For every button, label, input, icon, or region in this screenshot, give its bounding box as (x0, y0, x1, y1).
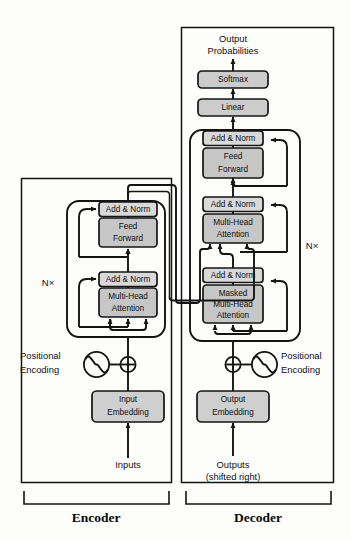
decoder-add-norm-2-label: Add & Norm (211, 200, 256, 209)
encoder-ff-label-2: Forward (113, 234, 143, 243)
transformer-architecture-diagram: Inputs Input Embedding Positional Encodi… (0, 0, 351, 539)
input-embedding-label-2: Embedding (107, 408, 149, 417)
encoder-add-norm-2-label: Add & Norm (106, 205, 151, 214)
encoder-inputs-label: Inputs (115, 459, 141, 470)
input-embedding-label-1: Input (119, 395, 138, 404)
decoder-repeat-label: N× (306, 240, 319, 251)
output-embedding-label-2: Embedding (212, 408, 254, 417)
encoder-add-norm-1-label: Add & Norm (106, 275, 151, 284)
output-probabilities-label-1: Output (219, 33, 248, 44)
decoder-ff-label-2: Forward (218, 165, 248, 174)
decoder-add-norm-3-label: Add & Norm (211, 134, 256, 143)
encoder-mha-label-1: Multi-Head (108, 292, 148, 301)
decoder-positional-label-1: Positional (281, 350, 322, 361)
decoder-footer-label: Decoder (234, 510, 282, 525)
decoder-mha-label-1: Multi-Head (213, 218, 253, 227)
decoder-mha-label-2: Attention (217, 230, 250, 239)
encoder-mha-label-2: Attention (112, 304, 145, 313)
encoder-footer-label: Encoder (72, 510, 121, 525)
encoder-positional-label-1: Positional (20, 350, 61, 361)
decoder-outputs-label-1: Outputs (217, 459, 250, 470)
softmax-label: Softmax (218, 75, 248, 84)
output-probabilities-label-2: Probabilities (207, 45, 258, 56)
encoder-ff-label-1: Feed (119, 222, 138, 231)
encoder-repeat-label: N× (42, 277, 55, 288)
decoder-positional-label-2: Encoding (281, 364, 320, 375)
decoder-mmha-label-1: Masked (219, 289, 248, 298)
encoder-positional-label-2: Encoding (20, 364, 59, 375)
output-embedding-label-1: Output (221, 395, 246, 404)
decoder-outputs-label-2: (shifted right) (206, 471, 261, 482)
decoder-mmha-label-3: Attention (217, 311, 250, 320)
decoder-ff-label-1: Feed (224, 152, 243, 161)
decoder-add-norm-1-label: Add & Norm (211, 271, 256, 280)
linear-label: Linear (222, 103, 245, 112)
